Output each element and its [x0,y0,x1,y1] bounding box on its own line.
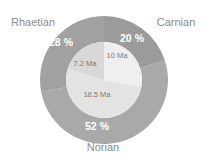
percent-label-norian: 52 % [85,120,110,132]
percent-label-rhaetian: 28 % [49,36,74,48]
duration-label-carnian: 10 Ma [107,51,129,60]
duration-label-rhaetian: 7.2 Ma [74,59,98,68]
stage-label-norian: Norian [87,141,119,153]
stage-label-rhaetian: Rhaetian [11,16,55,28]
percent-label-carnian: 20 % [120,32,145,44]
nested-pie-chart: 20 %52 %28 %10 Ma18.5 Ma7.2 MaCarnianNor… [0,0,208,162]
duration-label-norian: 18.5 Ma [83,90,111,99]
stage-label-carnian: Carnian [157,16,196,28]
